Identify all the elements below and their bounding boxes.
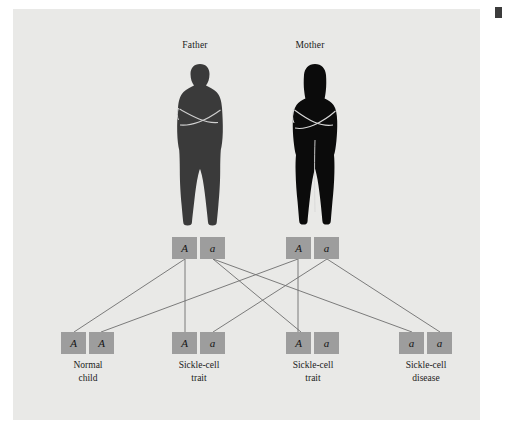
child-2-allele-1: A [172,332,197,354]
child-1-label-line1: Normal [28,359,148,372]
child-1-allele-2: A [89,332,114,354]
child-4-allele-1: a [399,332,424,354]
child-3-allele-2: a [314,332,339,354]
child-4-allele-2: a [427,332,452,354]
figure-canvas: Father Mother A a [0,0,513,427]
child-4-label-line1: Sickle-cell [366,359,486,372]
mother-allele-2: a [314,237,339,259]
child-1-label: Normal child [28,359,148,384]
child-2-label-line2: trait [139,372,259,385]
child-3-label-line1: Sickle-cell [253,359,373,372]
child-1-allele-1: A [61,332,86,354]
father-silhouette [172,62,228,227]
child-2-label-line1: Sickle-cell [139,359,259,372]
mother-label: Mother [275,40,345,50]
child-3-label-line2: trait [253,372,373,385]
child-4-label: Sickle-cell disease [366,359,486,384]
corner-mark [495,7,502,18]
child-3-allele-1: A [286,332,311,354]
child-3-label: Sickle-cell trait [253,359,373,384]
mother-silhouette [288,62,342,227]
mother-allele-1: A [286,237,311,259]
child-2-allele-2: a [200,332,225,354]
child-1-label-line2: child [28,372,148,385]
father-allele-2: a [200,237,225,259]
father-label: Father [160,40,230,50]
child-4-label-line2: disease [366,372,486,385]
father-allele-1: A [172,237,197,259]
child-2-label: Sickle-cell trait [139,359,259,384]
